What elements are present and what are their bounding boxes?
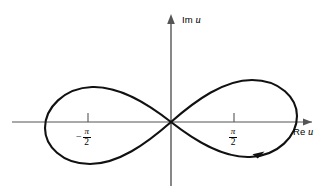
real-axis-label-variable: u [306,126,314,137]
lemniscate-plot [0,0,330,192]
tick-label-neg-numerator: π [83,127,90,137]
tick-label-neg-denominator: 2 [84,138,89,148]
tick-label-pos-numerator: π [230,127,237,137]
imaginary-axis-label-prefix: Im [182,14,193,25]
imaginary-axis [167,14,175,186]
tick-label-neg-fraction: π 2 [83,127,91,148]
imaginary-axis-arrowhead [167,14,175,24]
real-axis [12,118,312,125]
real-axis-label: Reu [293,126,314,137]
figure-container: Imu Reu − π 2 π 2 [0,0,330,192]
tick-label-pos-fraction: π 2 [229,127,237,148]
tick-label-neg-sign: − [76,132,83,142]
tick-label-pos-half-pi: π 2 [229,127,237,148]
imaginary-axis-label-variable: u [193,14,201,25]
tick-label-pos-denominator: 2 [231,138,236,148]
imaginary-axis-label: Imu [182,14,201,25]
real-axis-arrowhead [303,118,312,125]
tick-label-neg-half-pi: − π 2 [76,127,91,148]
real-axis-label-prefix: Re [293,126,306,137]
